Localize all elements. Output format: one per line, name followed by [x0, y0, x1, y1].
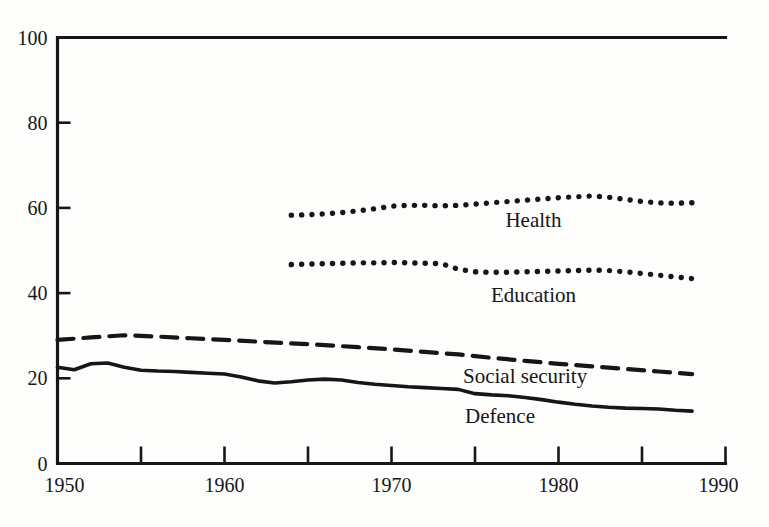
series-label-defence: Defence: [465, 404, 535, 428]
series-line-health: [291, 196, 692, 215]
y-tick-label: 20: [28, 367, 48, 389]
series-line-social-security: [58, 335, 693, 374]
y-tick-label: 0: [38, 453, 48, 475]
series-line-education: [291, 262, 692, 278]
chart-page: 020406080100 19501960197019801990 Health…: [0, 0, 769, 527]
y-axis-tick-labels: 020406080100: [18, 27, 48, 475]
y-tick-label: 60: [28, 197, 48, 219]
x-axis-tick-labels: 19501960197019801990: [45, 474, 739, 496]
x-axis-ticks: [58, 447, 726, 464]
axis-lines: [58, 38, 726, 464]
series-label-social-security: Social security: [463, 364, 588, 388]
x-tick-label: 1980: [539, 474, 579, 496]
series-lines: [58, 196, 693, 411]
y-tick-label: 40: [28, 282, 48, 304]
x-tick-label: 1950: [45, 474, 85, 496]
series-label-health: Health: [505, 208, 561, 232]
axes-group: [58, 38, 726, 464]
x-tick-label: 1990: [699, 474, 739, 496]
x-tick-label: 1970: [372, 474, 412, 496]
y-tick-label: 80: [28, 112, 48, 134]
line-chart: 020406080100 19501960197019801990 Health…: [0, 0, 769, 527]
y-tick-label: 100: [18, 27, 48, 49]
series-label-education: Education: [491, 283, 577, 307]
x-tick-label: 1960: [205, 474, 245, 496]
series-line-defence: [58, 363, 693, 411]
